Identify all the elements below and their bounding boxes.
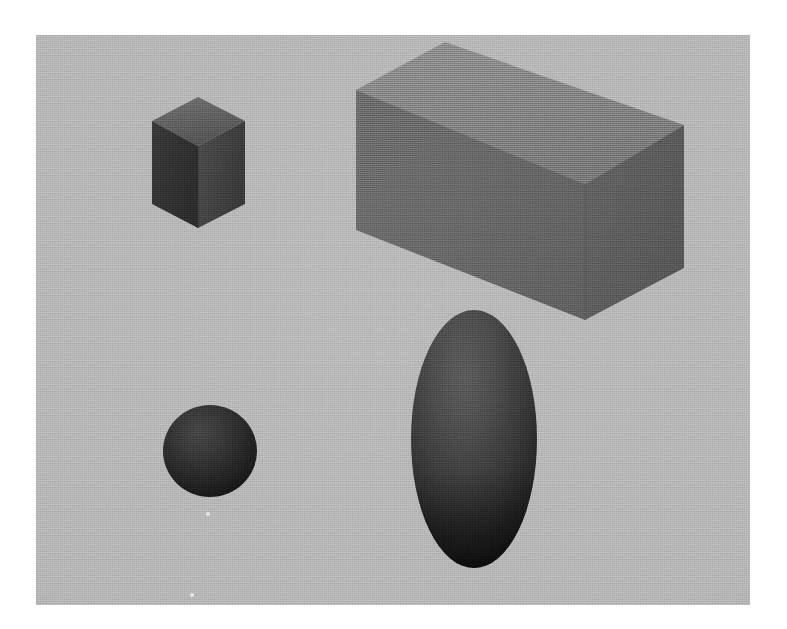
- large-ellipsoid[interactable]: [411, 310, 537, 568]
- page-title: Geometric Shapes Scene: [0, 21, 1, 22]
- scene-description: Four rendered 3D primitives on a flat gr…: [0, 16, 1, 17]
- large-box[interactable]: [356, 42, 684, 320]
- shapes-layer: [36, 35, 750, 605]
- small-sphere[interactable]: [163, 405, 257, 497]
- scene-root: Geometric Shapes Scene Four rendered 3D …: [0, 0, 787, 629]
- scene-canvas: [36, 35, 750, 605]
- small-cube[interactable]: [152, 97, 245, 228]
- large-ellipsoid-contact-shadow: [411, 310, 537, 568]
- small-sphere-body: [163, 405, 257, 497]
